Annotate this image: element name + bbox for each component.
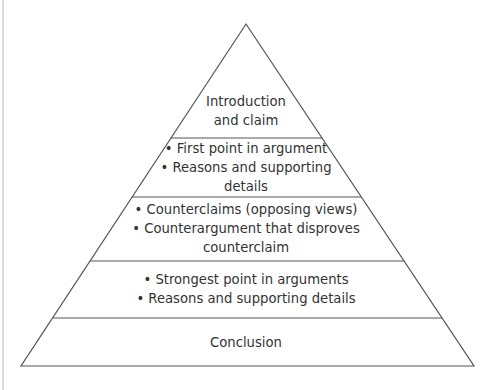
level-text: • Reasons and supporting details — [96, 289, 396, 308]
level-text: Conclusion — [146, 333, 346, 352]
level-text: counterclaim — [106, 238, 386, 257]
level-text: details — [136, 177, 356, 196]
level-text: Introduction — [146, 92, 346, 111]
level-conclusion: Conclusion — [146, 333, 346, 352]
level-text: • Counterclaims (opposing views) — [106, 200, 386, 219]
level-strongest-point: • Strongest point in arguments • Reasons… — [96, 270, 396, 308]
level-text: and claim — [146, 111, 346, 130]
level-text: • Strongest point in arguments — [96, 270, 396, 289]
level-first-point: • First point in argument • Reasons and … — [136, 139, 356, 196]
level-text: • Reasons and supporting — [136, 158, 356, 177]
level-introduction: Introduction and claim — [146, 92, 346, 130]
level-counterclaims: • Counterclaims (opposing views) • Count… — [106, 200, 386, 257]
level-text: • Counterargument that disproves — [106, 219, 386, 238]
level-text: • First point in argument — [136, 139, 356, 158]
